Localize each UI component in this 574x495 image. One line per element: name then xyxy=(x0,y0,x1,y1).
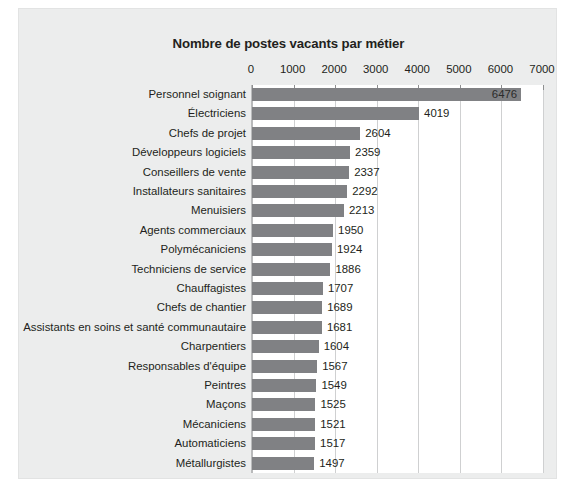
bar[interactable] xyxy=(252,301,322,314)
category-label: Mécaniciens xyxy=(183,417,246,431)
chart-title: Nombre de postes vacants par métier xyxy=(19,36,558,51)
bar-row: Mécaniciens1521 xyxy=(252,415,543,434)
bar[interactable] xyxy=(252,127,360,140)
bar-row: Menuisiers2213 xyxy=(252,201,543,220)
bar[interactable] xyxy=(252,321,322,334)
category-label: Installateurs sanitaires xyxy=(133,184,246,198)
bar-row: Chefs de chantier1689 xyxy=(252,298,543,317)
category-label: Techniciens de service xyxy=(131,262,246,276)
chart-figure: Nombre de postes vacants par métier 0100… xyxy=(18,8,557,479)
bar[interactable] xyxy=(252,340,319,353)
value-label: 4019 xyxy=(424,106,449,120)
bar[interactable] xyxy=(252,282,323,295)
value-label: 1521 xyxy=(320,417,345,431)
category-label: Polymécaniciens xyxy=(161,242,246,256)
bar-row: Responsables d'équipe1567 xyxy=(252,357,543,376)
value-label: 2604 xyxy=(365,126,390,140)
category-label: Menuisiers xyxy=(191,203,246,217)
value-label: 1604 xyxy=(324,339,349,353)
value-label: 1549 xyxy=(321,378,346,392)
bar[interactable] xyxy=(252,185,347,198)
category-label: Maçons xyxy=(206,397,246,411)
bar[interactable] xyxy=(252,224,333,237)
x-tick-label-3000: 3000 xyxy=(363,63,388,75)
value-label: 6476 xyxy=(492,87,517,101)
value-label: 1567 xyxy=(322,359,347,373)
bar[interactable] xyxy=(252,146,350,159)
x-tick-label-6000: 6000 xyxy=(488,63,513,75)
bar[interactable] xyxy=(252,360,317,373)
bar[interactable] xyxy=(252,457,314,470)
category-label: Électriciens xyxy=(188,106,246,120)
value-label: 2292 xyxy=(352,184,377,198)
bar-row: Polymécaniciens1924 xyxy=(252,240,543,259)
category-label: Chauffagistes xyxy=(177,281,246,295)
bar-row: Chefs de projet2604 xyxy=(252,124,543,143)
bar[interactable] xyxy=(252,88,521,101)
bar-row: Développeurs logiciels2359 xyxy=(252,143,543,162)
category-label: Responsables d'équipe xyxy=(128,359,246,373)
category-label: Agents commerciaux xyxy=(140,223,246,237)
x-tick-label-7000: 7000 xyxy=(529,63,554,75)
value-label: 1497 xyxy=(319,456,344,470)
bar-row: Métallurgistes1497 xyxy=(252,454,543,473)
x-tick-label-0: 0 xyxy=(248,63,254,75)
value-label: 2359 xyxy=(355,145,380,159)
bar[interactable] xyxy=(252,243,332,256)
value-label: 1689 xyxy=(327,300,352,314)
category-label: Assistants en soins et santé communautai… xyxy=(23,320,246,334)
bar[interactable] xyxy=(252,204,344,217)
bar-row: Maçons1525 xyxy=(252,395,543,414)
bar-row: Conseillers de vente2337 xyxy=(252,163,543,182)
category-label: Charpentiers xyxy=(181,339,246,353)
category-label: Conseillers de vente xyxy=(143,165,246,179)
bar[interactable] xyxy=(252,437,315,450)
bar-row: Installateurs sanitaires2292 xyxy=(252,182,543,201)
bar-row: Automaticiens1517 xyxy=(252,434,543,453)
bar-row: Électriciens4019 xyxy=(252,104,543,123)
x-tick-label-2000: 2000 xyxy=(321,63,346,75)
category-label: Chefs de projet xyxy=(169,126,246,140)
x-tick-label-5000: 5000 xyxy=(446,63,471,75)
value-label: 2337 xyxy=(354,165,379,179)
category-label: Métallurgistes xyxy=(176,456,246,470)
category-label: Développeurs logiciels xyxy=(132,145,246,159)
x-tick-label-1000: 1000 xyxy=(280,63,305,75)
value-label: 1924 xyxy=(337,242,362,256)
value-label: 2213 xyxy=(349,203,374,217)
category-label: Personnel soignant xyxy=(148,87,246,101)
value-label: 1950 xyxy=(338,223,363,237)
bar[interactable] xyxy=(252,263,330,276)
bar-row: Chauffagistes1707 xyxy=(252,279,543,298)
category-label: Chefs de chantier xyxy=(157,300,246,314)
category-label: Automaticiens xyxy=(174,436,246,450)
bar[interactable] xyxy=(252,107,419,120)
bar-row: Peintres1549 xyxy=(252,376,543,395)
x-tick-label-4000: 4000 xyxy=(405,63,430,75)
bar[interactable] xyxy=(252,166,349,179)
value-label: 1681 xyxy=(327,320,352,334)
value-label: 1886 xyxy=(335,262,360,276)
value-label: 1517 xyxy=(320,436,345,450)
x-tick-7000 xyxy=(543,85,544,90)
bar-row: Agents commerciaux1950 xyxy=(252,221,543,240)
plot-area: Personnel soignant6476Électriciens4019Ch… xyxy=(251,85,543,473)
gridline-7000 xyxy=(543,85,544,473)
bar[interactable] xyxy=(252,418,315,431)
bar-row: Techniciens de service1886 xyxy=(252,260,543,279)
bar-row: Assistants en soins et santé communautai… xyxy=(252,318,543,337)
category-label: Peintres xyxy=(204,378,246,392)
bar-row: Personnel soignant6476 xyxy=(252,85,543,104)
bar[interactable] xyxy=(252,398,315,411)
bar[interactable] xyxy=(252,379,316,392)
value-label: 1525 xyxy=(320,397,345,411)
value-label: 1707 xyxy=(328,281,353,295)
x-axis-tick-labels: 01000200030004000500060007000 xyxy=(251,63,542,81)
bar-row: Charpentiers1604 xyxy=(252,337,543,356)
